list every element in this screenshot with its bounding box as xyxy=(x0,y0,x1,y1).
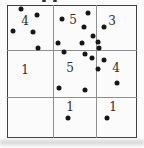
data-dot xyxy=(115,81,120,86)
data-dot xyxy=(90,56,95,61)
data-dot xyxy=(62,50,67,55)
data-dot xyxy=(91,34,96,39)
data-dot xyxy=(86,11,91,16)
grid-vertical-line-2 xyxy=(96,5,97,138)
data-dot xyxy=(11,29,16,34)
data-dot xyxy=(96,40,101,45)
data-dot xyxy=(96,67,101,72)
data-dot xyxy=(35,13,40,18)
cell-count-top-middle: 5 xyxy=(69,14,77,26)
data-dot xyxy=(102,58,107,63)
cell-count-bottom-right: 1 xyxy=(109,101,117,113)
cell-count-middle-right: 4 xyxy=(112,62,120,74)
data-dot xyxy=(83,88,88,93)
data-dot xyxy=(36,46,41,51)
data-dot xyxy=(105,116,110,121)
grid-horizontal-line-2 xyxy=(7,97,137,98)
data-dot xyxy=(83,52,88,57)
grid-vertical-line-1 xyxy=(53,5,54,138)
data-dot xyxy=(102,25,107,30)
data-dot xyxy=(19,7,24,12)
data-dot xyxy=(31,30,36,35)
data-dot xyxy=(80,41,85,46)
grid-horizontal-line-1 xyxy=(7,50,137,51)
cell-count-middle-left: 1 xyxy=(21,64,29,76)
cell-count-middle-middle: 5 xyxy=(66,62,74,74)
data-dot xyxy=(56,41,61,46)
cell-count-top-left: 4 xyxy=(21,15,29,27)
cell-count-bottom-middle: 1 xyxy=(66,101,74,113)
quadrat-figure: 45315411 xyxy=(0,0,144,148)
data-dot xyxy=(82,25,87,30)
cropped-text-remnant xyxy=(53,0,57,2)
data-dot xyxy=(60,17,65,22)
data-dot xyxy=(66,116,71,121)
data-dot xyxy=(97,46,102,51)
scan-shadow xyxy=(0,140,144,145)
cell-count-top-right: 3 xyxy=(108,15,116,27)
data-dot xyxy=(57,86,62,91)
cropped-text-remnant xyxy=(42,0,46,2)
